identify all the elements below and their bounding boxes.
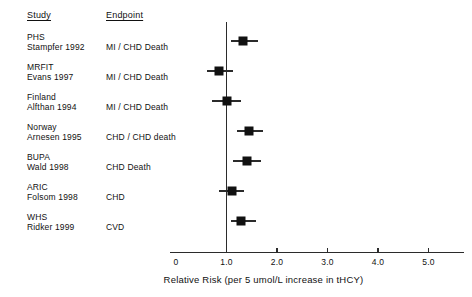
x-axis-title: Relative Risk (per 5 umol/L increase in … (0, 274, 472, 285)
point-estimate-marker (222, 97, 231, 106)
point-estimate-marker (238, 37, 247, 46)
forest-plot-figure: Study Endpoint PHSStampfer 1992MI / CHD … (0, 0, 472, 297)
x-axis-tick-label: 2.0 (271, 257, 283, 267)
point-estimate-marker (227, 187, 236, 196)
point-estimate-marker (245, 127, 254, 136)
x-axis-tick (327, 248, 328, 252)
x-axis-tick-label: 5.0 (422, 257, 434, 267)
plot-area: 01.02.03.04.05.0 Relative Risk (per 5 um… (0, 0, 472, 297)
x-axis-tick-label: 1.0 (220, 257, 232, 267)
point-estimate-marker (214, 67, 223, 76)
x-axis-tick (276, 248, 277, 252)
x-axis-tick (226, 248, 227, 252)
x-axis-tick-label: 4.0 (372, 257, 384, 267)
point-estimate-marker (236, 217, 245, 226)
null-reference-line (226, 22, 227, 252)
x-axis-tick (428, 248, 429, 252)
x-axis-line (170, 252, 464, 253)
x-axis-tick-label: 3.0 (321, 257, 333, 267)
x-axis-tick-label: 0 (174, 257, 179, 267)
point-estimate-marker (242, 157, 251, 166)
x-axis-tick (377, 248, 378, 252)
